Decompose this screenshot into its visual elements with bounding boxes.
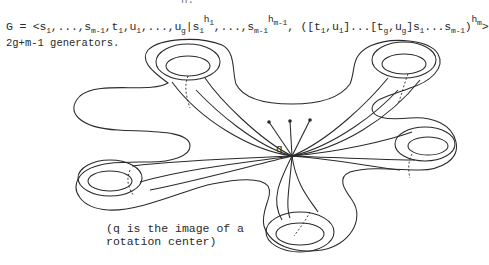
handle-top-right-outer <box>372 42 436 78</box>
handle-bottom-inner <box>276 223 324 245</box>
handle-top-right-inner <box>382 54 426 74</box>
figure-caption: (q is the image of a rotation center) <box>106 222 244 248</box>
strand-2 <box>290 121 292 156</box>
handle-left-inner <box>88 171 132 191</box>
handle-top-left-outer <box>156 44 220 80</box>
handle-right-inner <box>408 137 448 155</box>
center-point-q <box>290 154 293 157</box>
q-label: q <box>276 143 283 155</box>
cone-point-1 <box>267 120 271 124</box>
handle-right-outer <box>395 127 455 161</box>
surface-diagram <box>0 0 489 265</box>
handle-top-left-inner <box>166 56 210 76</box>
strand-3 <box>292 120 310 156</box>
cone-point-3 <box>308 118 312 122</box>
cone-point-2 <box>288 119 292 123</box>
